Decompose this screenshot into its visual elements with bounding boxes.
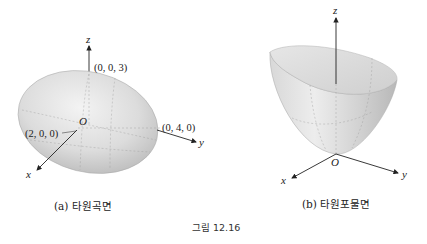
y-axis-label: y xyxy=(198,136,204,148)
z-axis-label: z xyxy=(332,4,338,16)
origin-label: O xyxy=(79,115,87,127)
panel-ellipsoid: z y x O (0, 0, 3) (0, 4, 0) (2, 0, 0) xyxy=(7,33,204,188)
x-axis-label: x xyxy=(280,174,286,186)
origin-label: O xyxy=(331,156,339,168)
figure-number: 그림 12.16 xyxy=(192,220,240,234)
y-axis-label: y xyxy=(401,168,407,180)
panel-paraboloid: z y x O xyxy=(270,4,407,186)
point-label-z: (0, 0, 3) xyxy=(94,62,128,74)
caption-b: (b) 타원포물면 xyxy=(302,196,370,211)
point-label-y: (0, 4, 0) xyxy=(162,122,196,134)
z-axis-label: z xyxy=(85,33,91,45)
point-label-x: (2, 0, 0) xyxy=(25,128,59,140)
y-axis xyxy=(336,154,398,173)
ellipsoid-surface xyxy=(7,56,169,187)
x-axis-label: x xyxy=(25,168,31,180)
x-axis xyxy=(292,154,336,178)
caption-a: (a) 타원곡면 xyxy=(54,198,112,213)
